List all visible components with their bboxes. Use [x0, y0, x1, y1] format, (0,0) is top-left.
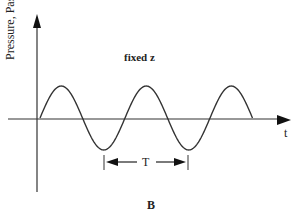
panel-label: B — [147, 199, 155, 211]
annotation-fixed-z: fixed z — [124, 52, 155, 63]
x-axis-label: t — [284, 127, 287, 139]
plot-canvas — [0, 0, 301, 214]
y-axis-label: Pressure, Pascal — [4, 0, 16, 60]
period-arrow-left-icon — [106, 158, 118, 166]
figure: Pressure, Pascal fixed z t T B — [0, 0, 301, 214]
pressure-wave — [40, 86, 253, 150]
x-axis-arrowhead-icon — [277, 115, 291, 125]
y-axis-arrowhead-icon — [33, 14, 41, 28]
period-arrow-right-icon — [174, 158, 186, 166]
period-label: T — [142, 156, 149, 168]
